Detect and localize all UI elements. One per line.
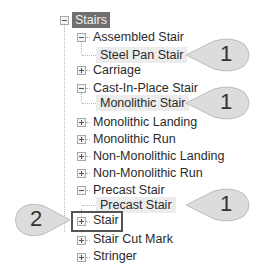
tree-line [81, 93, 82, 103]
tree-item-monolithic-run[interactable]: Monolithic Run [91, 131, 178, 147]
expand-toggle-stair[interactable] [77, 217, 86, 226]
expand-toggle-stringer[interactable] [77, 253, 86, 262]
expand-toggle-monolithic-landing[interactable] [77, 118, 86, 127]
tree-line [86, 257, 90, 258]
tree-item-stair-cut-mark[interactable]: Stair Cut Mark [91, 231, 175, 247]
tree-line [64, 25, 65, 232]
tree-item-stairs[interactable]: Stairs [72, 12, 110, 28]
expand-toggle-monolithic-run[interactable] [77, 135, 86, 144]
collapse-toggle-cast-in-place-stair[interactable] [77, 84, 86, 93]
tree-line [86, 139, 90, 140]
tree-item-steel-pan-stair[interactable]: Steel Pan Stair [96, 47, 187, 63]
tree-item-precast-stair[interactable]: Precast Stair [91, 182, 167, 198]
expand-toggle-non-monolithic-run[interactable] [77, 169, 86, 178]
tree-line [86, 122, 90, 123]
callout-1-monolithic: 1 [184, 86, 254, 120]
expand-toggle-stair-cut-mark[interactable] [77, 236, 86, 245]
callout-shape-icon [184, 86, 254, 120]
tree-line [86, 190, 90, 191]
callout-1-precast: 1 [184, 188, 254, 222]
tree-item-carriage[interactable]: Carriage [91, 62, 143, 78]
tree-line [82, 205, 96, 206]
callout-shape-icon [184, 38, 254, 72]
tree-item-stringer[interactable]: Stringer [91, 248, 139, 264]
tree-line [86, 37, 90, 38]
tree-line [86, 156, 90, 157]
tree-item-non-monolithic-run[interactable]: Non-Monolithic Run [91, 165, 205, 181]
callout-shape-icon [184, 188, 254, 222]
tree-line [86, 240, 90, 241]
tree-line [86, 70, 90, 71]
tree-line [82, 55, 96, 56]
tree-line [86, 88, 90, 89]
expand-toggle-non-monolithic-landing[interactable] [77, 152, 86, 161]
tree-line [82, 103, 96, 104]
tree-item-assembled-stair[interactable]: Assembled Stair [91, 29, 186, 45]
tree-item-stair[interactable]: Stair [91, 212, 121, 228]
expand-toggle-carriage[interactable] [77, 66, 86, 75]
collapse-toggle-assembled-stair[interactable] [77, 33, 86, 42]
tree-item-monolithic-stair[interactable]: Monolithic Stair [96, 95, 189, 111]
callout-shape-icon [14, 203, 72, 237]
collapse-toggle-stairs[interactable] [60, 16, 69, 25]
tree-line [86, 173, 90, 174]
tree-item-non-monolithic-landing[interactable]: Non-Monolithic Landing [91, 148, 226, 164]
callout-1-steel-pan: 1 [184, 38, 254, 72]
callout-2-stair: 2 [14, 203, 72, 237]
tree-line [86, 221, 90, 222]
tree-item-monolithic-landing[interactable]: Monolithic Landing [91, 114, 199, 130]
collapse-toggle-precast-stair[interactable] [77, 186, 86, 195]
